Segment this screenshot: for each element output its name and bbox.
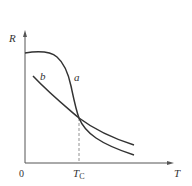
y-axis-label: R xyxy=(8,32,16,44)
x-axis-label: T xyxy=(174,167,181,179)
curve-b-label: b xyxy=(40,70,46,82)
chart-canvas: R T 0 TC b a xyxy=(0,0,192,186)
curve-a-label: a xyxy=(74,71,80,83)
curve-b xyxy=(33,76,134,145)
x-axis-arrow-icon xyxy=(167,161,174,165)
tc-label: TC xyxy=(73,167,84,181)
origin-label: 0 xyxy=(19,168,24,179)
y-axis-arrow-icon xyxy=(23,30,27,37)
